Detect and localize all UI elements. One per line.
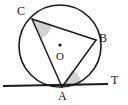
label-center-o: O [56,51,64,62]
label-point-a: A [58,90,67,102]
label-point-t: T [111,74,118,86]
geometry-figure: C B O A T [0,0,128,105]
label-point-b: B [99,32,107,44]
center-point-dot [58,43,61,46]
label-point-c: C [17,5,25,17]
tangent-line-at [3,84,108,86]
